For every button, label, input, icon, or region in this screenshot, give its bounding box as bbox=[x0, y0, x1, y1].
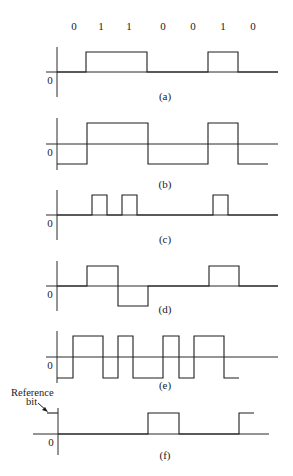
arrow-icon bbox=[38, 403, 48, 412]
signal-waveform bbox=[57, 195, 278, 215]
panel-caption: (a) bbox=[159, 90, 172, 103]
nrz-line-coding-diagram: 0110010 0(a)0(b)0(c)0(d)0(e)0(f) Referen… bbox=[0, 0, 293, 476]
panel-e: 0(e) bbox=[46, 331, 278, 392]
zero-level-label: 0 bbox=[47, 146, 53, 158]
panel-d: 0(d) bbox=[46, 261, 278, 316]
panel-caption: (f) bbox=[160, 449, 171, 462]
signal-waveform bbox=[58, 413, 254, 434]
reference-bit-annotation: Reference bit bbox=[11, 387, 54, 412]
bit-label: 0 bbox=[250, 20, 256, 32]
zero-level-label: 0 bbox=[48, 436, 54, 448]
signal-waveform bbox=[57, 52, 278, 72]
bit-label: 1 bbox=[98, 20, 104, 32]
panel-caption: (c) bbox=[159, 233, 172, 246]
waveform-panels: 0(a)0(b)0(c)0(d)0(e)0(f) bbox=[33, 47, 278, 462]
zero-level-label: 0 bbox=[47, 359, 53, 371]
panel-b: 0(b) bbox=[46, 118, 278, 191]
bit-label: 0 bbox=[160, 20, 166, 32]
zero-level-label: 0 bbox=[47, 288, 53, 300]
panel-caption: (e) bbox=[159, 379, 172, 392]
bit-label: 0 bbox=[190, 20, 196, 32]
bit-label: 1 bbox=[220, 20, 226, 32]
panel-caption: (b) bbox=[159, 178, 172, 191]
bit-label: 0 bbox=[71, 20, 77, 32]
bit-label: 1 bbox=[126, 20, 132, 32]
panel-c: 0(c) bbox=[46, 190, 278, 246]
reference-bit-label: bit bbox=[26, 396, 37, 407]
zero-level-label: 0 bbox=[47, 217, 53, 229]
panel-f: 0(f) bbox=[33, 408, 269, 462]
zero-level-label: 0 bbox=[47, 74, 53, 86]
panel-caption: (d) bbox=[159, 303, 172, 316]
panel-a: 0(a) bbox=[46, 47, 278, 103]
bit-sequence-labels: 0110010 bbox=[71, 20, 256, 32]
